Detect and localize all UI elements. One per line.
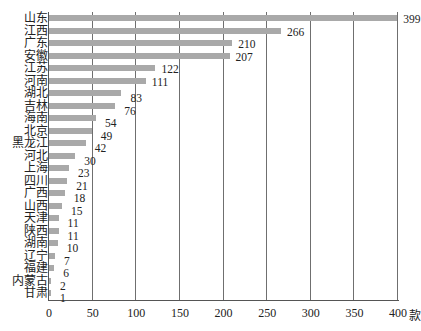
category-label: 四川 <box>24 175 48 187</box>
x-tick-label: 150 <box>171 306 189 321</box>
x-axis-line <box>48 300 399 301</box>
value-label: 54 <box>105 117 117 129</box>
value-label: 7 <box>64 255 70 267</box>
bar <box>49 153 75 159</box>
value-label: 111 <box>152 76 168 88</box>
bar <box>49 240 58 246</box>
category-label: 海南 <box>24 112 48 124</box>
value-label: 83 <box>130 92 142 104</box>
bar <box>49 78 146 84</box>
category-label: 山西 <box>24 200 48 212</box>
category-label: 湖北 <box>24 87 48 99</box>
x-tick-label: 350 <box>345 306 363 321</box>
bar <box>49 103 115 109</box>
value-label: 30 <box>84 155 96 167</box>
category-label: 江苏 <box>24 62 48 74</box>
bar <box>49 228 59 234</box>
bar <box>49 265 54 271</box>
category-label: 安徽 <box>24 50 48 62</box>
value-label: 10 <box>67 242 79 254</box>
bar <box>49 165 69 171</box>
category-label: 天津 <box>24 212 48 224</box>
value-label: 6 <box>63 267 69 279</box>
category-label: 甘肃 <box>24 287 48 299</box>
value-label: 2 <box>60 280 66 292</box>
bar <box>49 215 59 221</box>
value-label: 18 <box>74 192 86 204</box>
value-label: 399 <box>403 13 420 25</box>
x-tick-label: 100 <box>127 306 145 321</box>
gridline <box>353 12 354 300</box>
x-tick-label: 200 <box>215 306 233 321</box>
bar <box>49 53 230 59</box>
value-label: 122 <box>161 63 178 75</box>
category-label: 湖南 <box>24 237 48 249</box>
value-label: 11 <box>68 230 79 242</box>
bar <box>49 15 397 21</box>
value-label: 1 <box>60 292 66 304</box>
bar <box>49 128 92 134</box>
bar <box>49 140 86 146</box>
bar <box>49 90 121 96</box>
category-label: 江西 <box>24 25 48 37</box>
bar <box>49 190 65 196</box>
bar <box>49 290 51 296</box>
bar <box>49 178 67 184</box>
value-label: 23 <box>78 167 90 179</box>
category-label: 广西 <box>24 187 48 199</box>
category-label: 黑龙江 <box>12 137 48 149</box>
category-label: 河北 <box>24 150 48 162</box>
x-axis-unit-label: 款 <box>409 306 421 324</box>
category-label: 吉林 <box>24 100 48 112</box>
category-label: 福建 <box>24 262 48 274</box>
value-label: 11 <box>68 217 79 229</box>
x-tick-label: 50 <box>87 306 99 321</box>
x-tick-label: 400 <box>389 306 407 321</box>
bar <box>49 278 51 284</box>
category-label: 上海 <box>24 162 48 174</box>
bar <box>49 65 155 71</box>
value-label: 266 <box>287 26 304 38</box>
category-label: 广东 <box>24 37 48 49</box>
bar <box>49 253 55 259</box>
value-label: 21 <box>76 180 88 192</box>
x-tick-label: 300 <box>302 306 320 321</box>
category-label: 辽宁 <box>24 250 48 262</box>
gridline <box>397 12 398 300</box>
x-tick-label: 250 <box>258 306 276 321</box>
category-label: 陕西 <box>24 225 48 237</box>
value-label: 42 <box>95 142 107 154</box>
category-label: 北京 <box>24 125 48 137</box>
bar <box>49 115 96 121</box>
bar <box>49 40 232 46</box>
value-label: 49 <box>101 130 113 142</box>
value-label: 210 <box>238 38 255 50</box>
category-label: 河南 <box>24 75 48 87</box>
value-label: 15 <box>71 205 83 217</box>
value-label: 207 <box>236 51 253 63</box>
gridline <box>310 12 311 300</box>
bar <box>49 203 62 209</box>
gridline <box>266 12 267 300</box>
category-label: 内蒙古 <box>12 275 48 287</box>
category-label: 山东 <box>24 12 48 24</box>
bar <box>49 28 281 34</box>
x-tick-label: 0 <box>46 306 52 321</box>
value-label: 76 <box>124 105 136 117</box>
